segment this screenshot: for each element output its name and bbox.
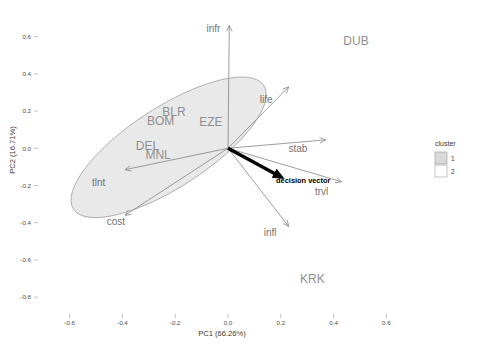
legend-label-1: 1 bbox=[451, 155, 455, 162]
pca-biplot-figure: -0.6-0.4-0.20.00.20.40.60.60.40.20.0-0.2… bbox=[0, 0, 490, 346]
y-tick-label: 0.4 bbox=[22, 70, 31, 77]
y-axis-title: PC2 (16.71%) bbox=[8, 126, 17, 174]
point-label-DUB: DUB bbox=[343, 34, 368, 48]
legend[interactable]: cluster12 bbox=[435, 140, 456, 177]
y-tick-label: 0.0 bbox=[22, 145, 31, 152]
point-label-EZE: EZE bbox=[199, 115, 222, 129]
x-axis-title: PC1 (66.26%) bbox=[198, 329, 246, 338]
variable-label-life: life bbox=[260, 94, 273, 105]
x-tick-label: 0.2 bbox=[276, 319, 285, 326]
y-tick-label: -0.2 bbox=[20, 182, 31, 189]
point-label-KRK: KRK bbox=[300, 272, 325, 286]
decision-vector-label: decision vector bbox=[276, 176, 330, 185]
variable-label-cost: cost bbox=[107, 216, 126, 227]
y-tick-label: -0.4 bbox=[20, 219, 31, 226]
x-tick-label: 0.0 bbox=[224, 319, 233, 326]
legend-title: cluster bbox=[435, 140, 456, 147]
chart-canvas: -0.6-0.4-0.20.00.20.40.60.60.40.20.0-0.2… bbox=[0, 0, 490, 346]
variable-label-trvl: trvl bbox=[315, 186, 328, 197]
x-tick-label: -0.6 bbox=[64, 319, 75, 326]
x-tick-label: 0.6 bbox=[382, 319, 391, 326]
y-tick-label: -0.6 bbox=[20, 256, 31, 263]
point-label-MNL: MNL bbox=[145, 148, 171, 162]
x-tick-label: -0.4 bbox=[117, 319, 128, 326]
plot-background bbox=[0, 0, 490, 346]
point-label-BOM: BOM bbox=[147, 114, 174, 128]
x-tick-label: 0.4 bbox=[329, 319, 338, 326]
x-tick-label: -0.2 bbox=[170, 319, 181, 326]
legend-swatch-2[interactable] bbox=[435, 165, 447, 177]
y-tick-label: -0.8 bbox=[20, 293, 31, 300]
variable-label-infl: infl bbox=[264, 227, 277, 238]
legend-swatch-1[interactable] bbox=[435, 152, 447, 164]
variable-label-tlnt: tlnt bbox=[92, 177, 106, 188]
y-tick-label: 0.2 bbox=[22, 107, 31, 114]
variable-label-stab: stab bbox=[288, 143, 307, 154]
variable-label-infr: infr bbox=[207, 23, 222, 34]
legend-label-2: 2 bbox=[451, 168, 455, 175]
y-tick-label: 0.6 bbox=[22, 33, 31, 40]
